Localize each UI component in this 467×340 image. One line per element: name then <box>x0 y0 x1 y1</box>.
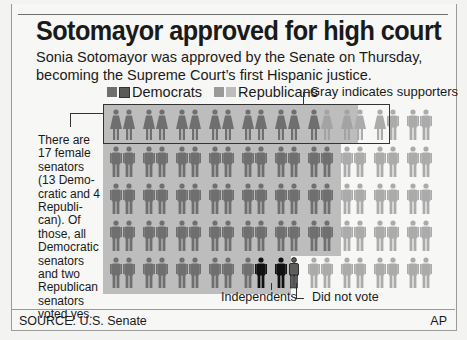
democrat-senator-icon <box>189 146 201 178</box>
democrat-senator-icon <box>275 220 287 252</box>
democrat-senator-icon <box>321 146 333 178</box>
republican-senator-icon <box>374 183 386 215</box>
republican-senator-icon <box>387 220 399 252</box>
democrat-senator-icon <box>242 220 254 252</box>
democrat-senator-icon <box>242 257 254 289</box>
democrat-senator-icon <box>189 183 201 215</box>
independents-label: Independents <box>221 290 297 304</box>
republican-senator-icon <box>341 146 353 178</box>
note-leader-tick <box>70 113 71 127</box>
republican-senator-icon <box>374 220 386 252</box>
democrat-senator-icon <box>288 220 300 252</box>
chart-subtitle: Sonia Sotomayor was approved by the Sena… <box>36 48 456 84</box>
republican-senator-icon <box>374 146 386 178</box>
democrat-senator-icon <box>209 220 221 252</box>
democrat-senator-icon <box>143 220 155 252</box>
legend-democrats: Democrats <box>132 84 202 100</box>
democrat-supporter-swatch <box>119 87 130 98</box>
republican-legend-swatch <box>214 87 224 97</box>
republican-senator-icon <box>374 257 386 289</box>
female-senators-box <box>103 104 390 144</box>
republican-senator-icon <box>420 257 432 289</box>
democrat-senator-icon <box>209 146 221 178</box>
democrat-senator-icon <box>255 183 267 215</box>
democrat-senator-icon <box>123 183 135 215</box>
democrat-senator-icon <box>308 146 320 178</box>
democrat-senator-icon <box>222 220 234 252</box>
republican-supporter-swatch <box>226 87 236 97</box>
democrat-senator-icon <box>308 220 320 252</box>
republican-senator-icon <box>420 183 432 215</box>
independent-senator-icon <box>275 257 287 289</box>
democrat-senator-icon <box>156 257 168 289</box>
republican-senator-icon <box>420 109 432 141</box>
democrat-senator-icon <box>222 146 234 178</box>
republican-senator-icon <box>354 146 366 178</box>
republican-senator-icon <box>354 220 366 252</box>
republican-senator-icon <box>341 183 353 215</box>
democrat-senator-icon <box>110 257 122 289</box>
chart-title: Sotomayor approved for high court <box>36 15 441 47</box>
republican-senator-icon <box>341 220 353 252</box>
republican-senator-icon <box>420 220 432 252</box>
legend: Democrats Republicans <box>107 84 330 100</box>
democrat-senator-icon <box>110 183 122 215</box>
credit-text: AP <box>430 314 447 328</box>
democrat-senator-icon <box>275 146 287 178</box>
democrat-senator-icon <box>321 183 333 215</box>
democrat-senator-icon <box>242 146 254 178</box>
democrat-legend-swatch <box>107 87 117 97</box>
republican-senator-icon <box>387 257 399 289</box>
supporters-leader-tick <box>303 92 310 93</box>
democrat-senator-icon <box>209 257 221 289</box>
democrat-senator-icon <box>222 257 234 289</box>
democrat-senator-icon <box>123 220 135 252</box>
republican-senator-icon <box>387 146 399 178</box>
democrat-senator-icon <box>143 146 155 178</box>
democrat-senator-icon <box>308 183 320 215</box>
independents-leader-line <box>271 283 272 290</box>
republican-senator-icon <box>407 109 419 141</box>
did-not-vote-leader-tick <box>296 298 304 299</box>
democrat-senator-icon <box>321 220 333 252</box>
democrat-senator-icon <box>288 146 300 178</box>
democrat-senator-icon <box>123 257 135 289</box>
did-not-vote-label: Did not vote <box>312 290 379 304</box>
supporters-note: Gray indicates supporters <box>310 84 458 99</box>
democrat-senator-icon <box>156 146 168 178</box>
did-not-vote-senator-icon <box>288 257 300 289</box>
democrat-senator-icon <box>242 183 254 215</box>
democrat-senator-icon <box>209 183 221 215</box>
source-text: SOURCE: U.S. Senate <box>19 314 147 328</box>
democrat-senator-icon <box>156 220 168 252</box>
democrat-senator-icon <box>275 183 287 215</box>
democrat-senator-icon <box>143 257 155 289</box>
democrat-senator-icon <box>176 146 188 178</box>
independent-senator-icon <box>255 257 267 289</box>
footer-rule <box>12 309 455 310</box>
democrat-senator-icon <box>110 220 122 252</box>
republican-senator-icon <box>354 257 366 289</box>
republican-senator-icon <box>407 220 419 252</box>
republican-senator-icon <box>341 257 353 289</box>
republican-senator-icon <box>387 183 399 215</box>
democrat-senator-icon <box>222 183 234 215</box>
female-senators-note: There are 17 female senators (13 Demo- c… <box>38 134 104 322</box>
democrat-senator-icon <box>156 183 168 215</box>
republican-senator-icon <box>420 146 432 178</box>
democrat-senator-icon <box>123 146 135 178</box>
republican-senator-icon <box>321 257 333 289</box>
democrat-senator-icon <box>189 257 201 289</box>
note-leader-line <box>70 113 103 114</box>
democrat-senator-icon <box>110 146 122 178</box>
did-not-vote-leader-line <box>296 283 297 298</box>
republican-senator-icon <box>354 183 366 215</box>
democrat-senator-icon <box>189 220 201 252</box>
democrat-senator-icon <box>176 257 188 289</box>
republican-senator-icon <box>407 183 419 215</box>
republican-senator-icon <box>407 257 419 289</box>
republican-senator-icon <box>407 146 419 178</box>
republican-senator-icon <box>308 257 320 289</box>
democrat-senator-icon <box>255 220 267 252</box>
democrat-senator-icon <box>176 183 188 215</box>
